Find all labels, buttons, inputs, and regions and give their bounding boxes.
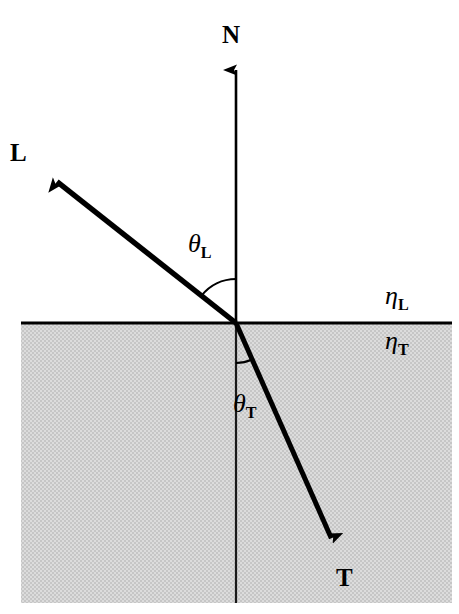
light-vector-label: L xyxy=(10,140,27,165)
refraction-diagram-figure: N L T θL θT ηL ηT xyxy=(0,0,459,614)
eta-lower-subscript: T xyxy=(398,341,409,358)
incident-angle-symbol: θ xyxy=(188,229,201,258)
eta-upper-symbol: η xyxy=(385,281,398,310)
eta-lower-symbol: η xyxy=(385,326,398,355)
transmitted-vector-label: T xyxy=(336,565,353,590)
incident-angle-arc xyxy=(201,279,236,296)
eta-upper-label: ηL xyxy=(385,283,409,313)
eta-upper-subscript: L xyxy=(398,296,409,313)
incident-angle-label: θL xyxy=(188,231,212,261)
transmitted-angle-symbol: θ xyxy=(233,389,246,418)
transmitted-angle-subscript: T xyxy=(246,404,257,421)
transmitted-angle-label: θT xyxy=(233,391,257,421)
incident-angle-subscript: L xyxy=(201,244,212,261)
normal-vector-label: N xyxy=(222,22,240,47)
eta-lower-label: ηT xyxy=(385,328,409,358)
